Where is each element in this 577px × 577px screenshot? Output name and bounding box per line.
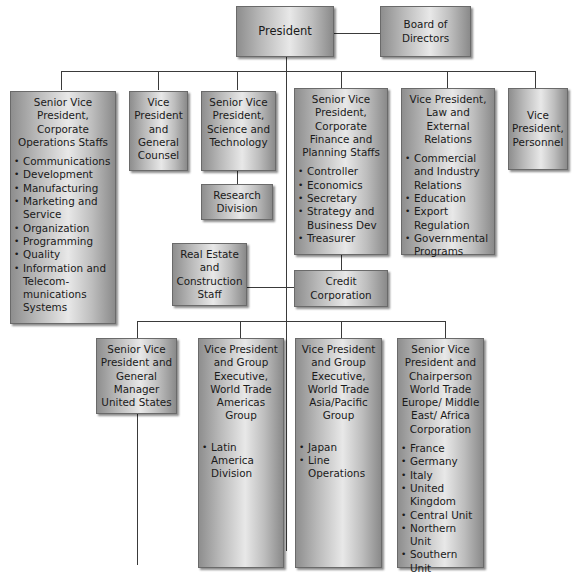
list-item: Governmental Programs [405, 232, 491, 259]
function-list: Japan Line Operations [299, 441, 378, 481]
list-item: Southern Unit [401, 548, 480, 575]
list-item: Controller [298, 165, 384, 178]
function-list: Latin America Division [202, 441, 280, 481]
box-title: Vice President, Law and External Relatio… [405, 93, 491, 146]
list-item: Quality [14, 248, 112, 261]
connector [237, 170, 238, 184]
connector [240, 321, 241, 338]
board-of-directors-box: Board of Directors [380, 6, 471, 57]
list-item: Latin America Division [202, 441, 263, 481]
real-estate-construction-box: Real Estate and Construction Staff [172, 243, 247, 306]
list-item: Secretary [298, 192, 384, 205]
list-item: Commercial and Industry Relations [405, 152, 491, 192]
vp-law-external-relations-box: Vice President, Law and External Relatio… [401, 88, 495, 255]
svp-world-trade-emea-box: Senior Vice President and Chairperson Wo… [397, 338, 484, 568]
box-title: Senior Vice President and General Manage… [100, 343, 173, 409]
connector [334, 33, 380, 34]
list-item: Education [405, 192, 491, 205]
box-title: Research Division [205, 189, 269, 216]
list-item: Manufacturing [14, 182, 112, 195]
box-title: Real Estate and Construction Staff [176, 248, 243, 301]
connector [137, 321, 138, 338]
box-title: Vice President, Personnel [512, 109, 564, 149]
president-label: President [258, 25, 312, 38]
box-title: Vice President and Group Executive, Worl… [202, 343, 280, 423]
box-title: Senior Vice President, Corporate Finance… [298, 93, 384, 159]
svp-corporate-finance-box: Senior Vice President, Corporate Finance… [294, 88, 388, 255]
function-list: Communications Development Manufacturing… [14, 155, 112, 315]
list-item: Line Operations [299, 454, 368, 481]
function-list: France Germany Italy United Kingdom Cent… [401, 442, 480, 575]
box-title: Senior Vice President, Corporate Operati… [14, 96, 112, 149]
list-item: Programming [14, 235, 112, 248]
list-item: Economics [298, 179, 384, 192]
box-title: Senior Vice President and Chairperson Wo… [401, 343, 480, 436]
box-title: Vice President and Group Executive, Worl… [299, 343, 378, 423]
connector [286, 56, 287, 551]
list-item: Northern Unit [401, 522, 480, 549]
connector [61, 71, 535, 72]
vp-general-counsel-box: Vice President and General Counsel [129, 91, 188, 171]
list-item: Treasurer [298, 232, 384, 245]
list-item: Strategy and Business Dev [298, 205, 384, 232]
vp-personnel-box: Vice President, Personnel [508, 88, 568, 170]
box-title: Senior Vice President, Science and Techn… [205, 96, 272, 149]
function-list: Controller Economics Secretary Strategy … [298, 165, 384, 245]
connector [341, 254, 342, 270]
svp-science-technology-box: Senior Vice President, Science and Techn… [201, 91, 276, 171]
connector [247, 287, 294, 288]
list-item: Japan [299, 441, 378, 454]
connector [341, 321, 342, 338]
list-item: Germany [401, 455, 480, 468]
connector [535, 71, 536, 88]
list-item: Central Unit [401, 509, 480, 522]
board-label: Board of Directors [396, 18, 456, 45]
list-item: Organization [14, 222, 112, 235]
svp-gm-united-states-box: Senior Vice President and General Manage… [96, 338, 177, 414]
list-item: Communications [14, 155, 112, 168]
connector [137, 321, 445, 322]
connector [341, 71, 342, 88]
president-box: President [236, 6, 334, 57]
connector [158, 71, 159, 90]
list-item: Marketing and Service [14, 195, 112, 222]
connector [137, 413, 138, 565]
list-item: Information and Telecom-munications Syst… [14, 262, 112, 315]
svp-corporate-operations-box: Senior Vice President, Corporate Operati… [10, 91, 116, 324]
credit-corporation-box: Credit Corporation [294, 270, 388, 307]
box-title: Credit Corporation [306, 275, 376, 302]
function-list: Commercial and Industry Relations Educat… [405, 152, 491, 258]
vp-world-trade-americas-box: Vice President and Group Executive, Worl… [198, 338, 284, 568]
box-title: Vice President and General Counsel [133, 96, 184, 162]
research-division-box: Research Division [201, 184, 273, 220]
list-item: Italy [401, 469, 480, 482]
connector [61, 71, 62, 90]
list-item: France [401, 442, 480, 455]
vp-world-trade-asia-pacific-box: Vice President and Group Executive, Worl… [295, 338, 382, 568]
list-item: United Kingdom [401, 482, 480, 509]
list-item: Development [14, 168, 112, 181]
connector [237, 71, 238, 90]
connector [447, 71, 448, 88]
connector [445, 321, 446, 338]
list-item: Export Regulation [405, 205, 491, 232]
